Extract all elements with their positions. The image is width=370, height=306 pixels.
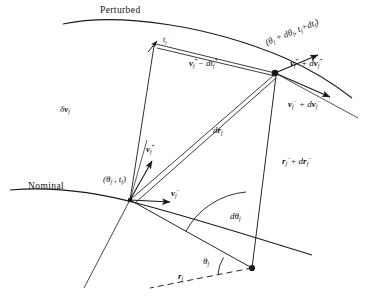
theta-f-arc (218, 258, 224, 275)
origin-dot (249, 265, 255, 271)
nominal-node-dot (128, 198, 132, 202)
nominal-node-steep-line (84, 196, 132, 288)
r-minus-plus-dr-minus-line (252, 76, 276, 268)
perturbed-node-extra-line (275, 73, 358, 118)
trajectory-variation-figure: Perturbed Nominal (θf + dθf, tf+dtf) (θf… (0, 0, 370, 306)
reference-axis-dashed (150, 268, 252, 288)
dr-f-line-b (135, 78, 276, 203)
diagram-canvas (0, 0, 370, 306)
nominal-node-steep-line-upper (130, 140, 147, 200)
delta-v-f-line (130, 46, 154, 200)
v-plus-dt-plus-line-b (157, 48, 275, 76)
r-f-line (130, 200, 252, 268)
nominal-trajectory-curve (10, 189, 312, 255)
dr-f-line-a (131, 75, 274, 199)
t-f-tangent-arrow (148, 41, 157, 52)
perturbed-node-dot (272, 70, 279, 77)
v-plus-plus-dv-plus-arrow (275, 55, 318, 73)
v-plus-dt-plus-line-a (156, 44, 275, 73)
d-theta-f-arc (186, 192, 246, 231)
